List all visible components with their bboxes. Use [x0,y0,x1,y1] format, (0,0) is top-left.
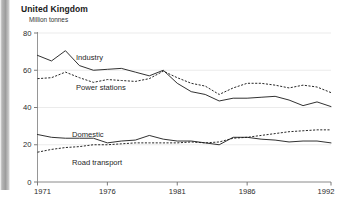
x-tick-label-1992: 1992 [318,187,335,196]
x-tick-label-1971: 1971 [34,187,51,196]
x-axis-tick-labels: 19711976198119861992 [34,187,335,196]
chart-page: United Kingdom Million tonnes 020406080 … [0,0,344,213]
series-label-industry: Industry [76,53,103,62]
line-chart: 020406080 19711976198119861992 IndustryP… [0,0,344,213]
y-tick-label-0: 0 [27,178,31,187]
y-tick-label-60: 60 [23,66,31,75]
x-tick-label-1976: 1976 [99,187,116,196]
x-tick-label-1981: 1981 [169,187,186,196]
series-label-power-stations: Power stations [76,83,126,92]
series-label-road-transport: Road transport [72,158,123,167]
series-label-domestic: Domestic [72,130,104,139]
y-axis-tick-labels: 020406080 [23,29,31,187]
x-tick-label-1986: 1986 [239,187,256,196]
y-tick-label-40: 40 [23,103,31,112]
y-tick-label-80: 80 [23,29,31,38]
y-tick-label-20: 20 [23,140,31,149]
